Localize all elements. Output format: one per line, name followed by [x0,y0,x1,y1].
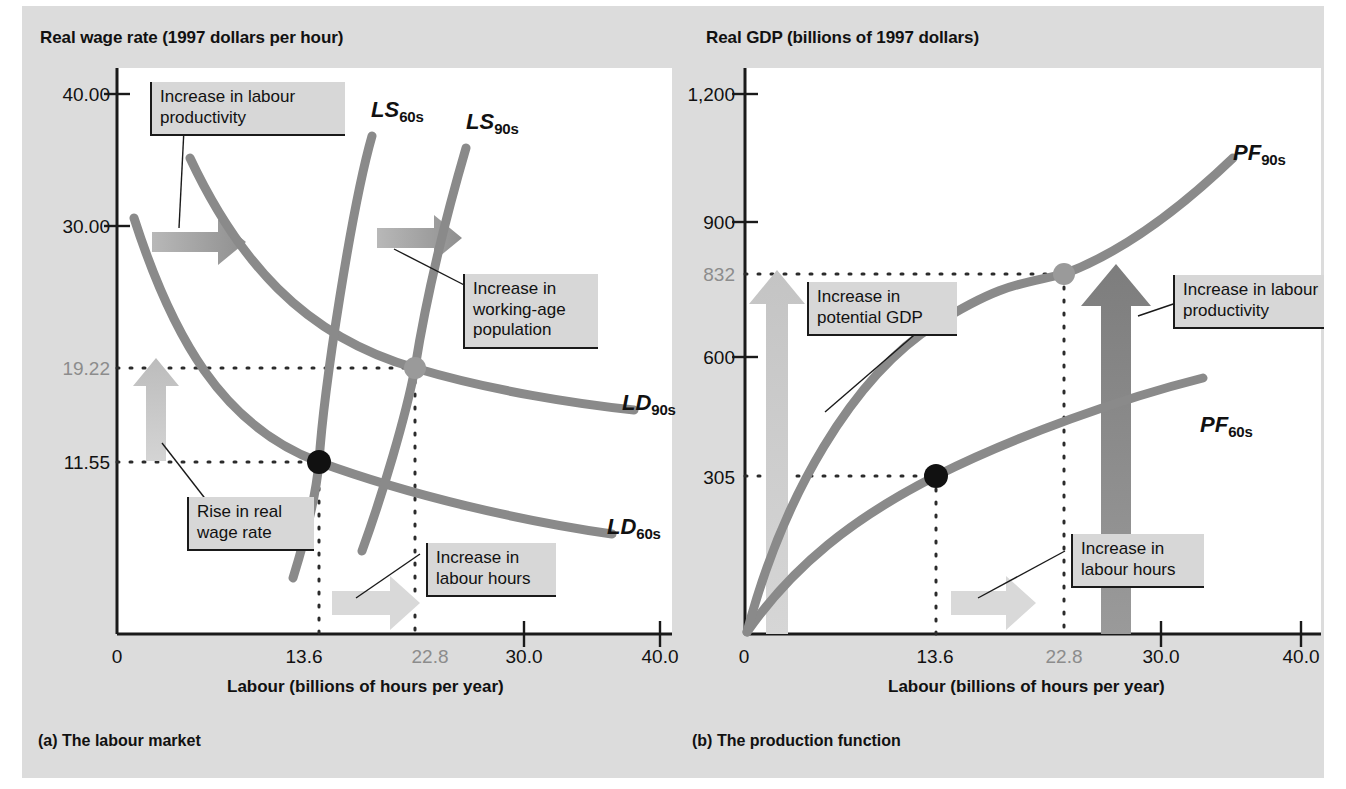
curve-ld-60s [134,218,612,534]
note-increase-labour-hours-b: Increase in labour hours [1071,534,1204,588]
panel-b-potential-gdp-60s-marker [924,464,948,488]
panel-b-leader-potential-gdp [825,330,920,412]
note-line: Rise in real [197,502,304,523]
note-line: Increase in [436,548,546,569]
note-increase-labour-productivity-b: Increase in labour productivity [1173,275,1324,329]
panel-a-caption: (a) The labour market [38,732,201,750]
note-increase-labour-hours-a: Increase in labour hours [426,543,556,597]
curve-label-pf-60s-sub: 60s [1228,423,1252,440]
panel-a-arrow-wage-rise [133,358,179,461]
curve-label-ls-90s-sub: 90s [494,120,518,137]
curve-label-ls-90s-base: LS [466,109,494,134]
panel-b-x-axis-title: Labour (billions of hours per year) [888,677,1165,697]
curve-label-ld-60s: LD60s [607,514,661,542]
note-increase-potential-gdp: Increase in potential GDP [807,282,957,336]
panel-b-graphics [673,6,1324,778]
curve-label-pf-90s: PF90s [1233,140,1286,168]
note-line: labour hours [1081,560,1194,581]
panel-production-function: Real GDP (billions of 1997 dollars) 1,20… [673,6,1324,778]
note-line: wage rate [197,523,304,544]
panel-b-potential-gdp-90s-marker [1053,263,1075,285]
curve-label-ld-90s: LD90s [622,390,676,418]
note-line: Increase in [817,287,947,308]
note-line: Increase in [473,279,588,300]
curve-label-ls-60s-base: LS [371,97,399,122]
note-line: population [473,320,588,341]
curve-label-ld-60s-sub: 60s [636,525,660,542]
note-rise-in-real-wage-rate: Rise in real wage rate [187,497,314,551]
note-line: labour hours [436,569,546,590]
curve-label-pf-60s-base: PF [1200,412,1228,437]
curve-label-ld-90s-base: LD [622,390,651,415]
note-line: potential GDP [817,308,947,329]
panel-a-graphics [22,6,673,778]
note-increase-working-age-population: Increase in working-age population [463,274,598,349]
curve-label-ls-90s: LS90s [466,109,519,137]
panel-a-equilibrium-60s-marker [307,450,331,474]
curve-label-pf-90s-sub: 90s [1261,151,1285,168]
panel-b-arrow-labour-hours [951,576,1036,630]
panel-labour-market: Real wage rate (1997 dollars per hour) 4… [22,6,673,778]
note-increase-labour-productivity-a: Increase in labour productivity [150,82,345,136]
note-line: working-age [473,300,588,321]
curve-label-pf-60s: PF60s [1200,412,1253,440]
note-line: productivity [1183,301,1324,322]
panel-b-caption: (b) The production function [692,732,901,750]
curve-label-ld-60s-base: LD [607,514,636,539]
note-line: productivity [160,108,335,129]
note-line: Increase in labour [1183,280,1324,301]
curve-label-ls-60s-sub: 60s [399,108,423,125]
figure-container: Real wage rate (1997 dollars per hour) 4… [22,6,1324,778]
curve-label-ls-60s: LS60s [371,97,424,125]
panel-a-leader-wage-rise [162,443,207,501]
note-line: Increase in [1081,539,1194,560]
panel-a-x-axis-title: Labour (billions of hours per year) [227,677,504,697]
panel-a-equilibrium-90s-marker [404,357,426,379]
note-line: Increase in labour [160,87,335,108]
panel-b-arrow-potential-gdp [749,270,805,634]
curve-label-pf-90s-base: PF [1233,140,1261,165]
